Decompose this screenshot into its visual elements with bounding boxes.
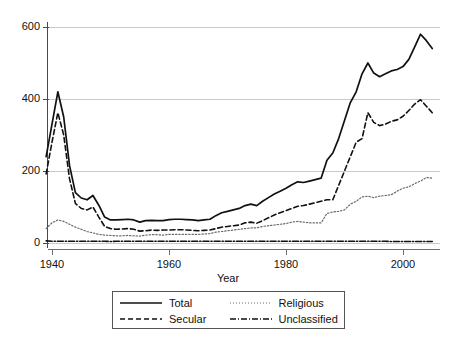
y-tick-label-600: 600	[0, 21, 40, 32]
y-tick-200	[43, 171, 49, 172]
legend-entry-total: Total	[119, 297, 229, 309]
y-tick-label-200: 200	[0, 165, 40, 176]
plot-area	[48, 27, 440, 243]
y-axis-line	[47, 22, 48, 248]
legend-entry-unclassified: Unclassified	[229, 313, 339, 325]
dashed-line-key	[119, 313, 163, 325]
y-tick-label-0: 0	[0, 237, 40, 248]
y-tick-0	[43, 243, 49, 244]
x-tick-label-1940: 1940	[25, 258, 79, 270]
gridline-0	[48, 243, 440, 244]
x-tick-2000	[403, 249, 404, 255]
x-tick-1940	[52, 249, 53, 255]
solid-line-key	[119, 297, 163, 309]
legend-label-unclassified: Unclassified	[279, 313, 338, 325]
x-tick-1960	[169, 249, 170, 255]
legend-row-2: Secular Unclassified	[119, 311, 338, 327]
gridline-200	[48, 171, 440, 172]
y-tick-400	[43, 99, 49, 100]
chart-figure: 600 400 200 0 1940 1960 1980 2000 Year T…	[0, 0, 456, 337]
legend-label-total: Total	[169, 297, 192, 309]
legend-entry-religious: Religious	[229, 297, 339, 309]
x-tick-label-2000: 2000	[376, 258, 430, 270]
dotted-line-key	[229, 297, 273, 309]
y-tick-600	[43, 27, 49, 28]
dashdot-line-key	[229, 313, 273, 325]
chart-legend: Total Religious Secular Unclassified	[112, 291, 345, 329]
x-axis-line	[48, 249, 440, 250]
x-axis-title: Year	[0, 272, 456, 284]
x-tick-label-1960: 1960	[142, 258, 196, 270]
y-tick-label-400: 400	[0, 93, 40, 104]
legend-label-secular: Secular	[169, 313, 206, 325]
legend-label-religious: Religious	[279, 297, 324, 309]
gridline-600	[48, 27, 440, 28]
x-tick-1980	[286, 249, 287, 255]
gridline-400	[48, 99, 440, 100]
legend-row-1: Total Religious	[119, 295, 338, 311]
x-tick-label-1980: 1980	[259, 258, 313, 270]
legend-entry-secular: Secular	[119, 313, 229, 325]
